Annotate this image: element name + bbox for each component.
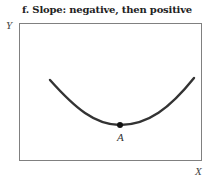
plot-frame [20, 24, 202, 161]
point-a-label: A [116, 131, 124, 143]
x-axis-label: X [194, 165, 203, 177]
y-axis-label: Y [6, 19, 14, 31]
slope-diagram: A Y X [0, 0, 210, 183]
u-curve [50, 78, 194, 125]
point-a-marker [117, 122, 123, 128]
